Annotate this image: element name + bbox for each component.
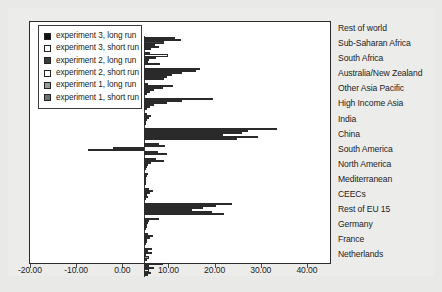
category-label: Netherlands: [338, 250, 383, 259]
bar: [144, 168, 146, 170]
bar: [144, 198, 146, 200]
legend-item: experiment 2, short run: [44, 67, 135, 79]
category-labels: Rest of worldSub-Saharan AfricaSouth Afr…: [338, 21, 442, 264]
legend-swatch-icon: [44, 57, 51, 64]
bar: [144, 93, 147, 95]
x-axis-tick-label: 10.00: [158, 266, 179, 275]
legend-item: experiment 1, short run: [44, 91, 135, 103]
legend-item: experiment 1, long run: [44, 79, 135, 91]
category-label: China: [338, 130, 360, 139]
figure-panel: experiment 3, long runexperiment 3, shor…: [8, 8, 434, 276]
category-label: France: [338, 235, 364, 244]
legend-item: experiment 3, long run: [44, 30, 135, 42]
legend-item-label: experiment 1, short run: [56, 94, 139, 102]
bar-group: [52, 232, 352, 247]
category-label: Australia/New Zealand: [338, 69, 422, 78]
x-axis-tick-label: 0.00: [114, 266, 130, 275]
x-axis-tick-label: -20.00: [18, 266, 42, 275]
bar-group: [52, 187, 352, 202]
chart-figure: experiment 3, long runexperiment 3, shor…: [0, 0, 442, 292]
bar: [144, 108, 147, 110]
bar-group: [52, 202, 352, 217]
category-label: Mediterranean: [338, 175, 392, 184]
bar-group: [52, 217, 352, 232]
category-label: South America: [338, 145, 393, 154]
legend-item-label: experiment 2, long run: [56, 57, 136, 65]
legend-swatch-icon: [44, 70, 51, 77]
category-label: Germany: [338, 220, 373, 229]
category-label: High Income Asia: [338, 99, 403, 108]
legend-item-label: experiment 3, short run: [56, 44, 139, 52]
category-label: Sub-Saharan Africa: [338, 39, 411, 48]
bar-group: [52, 157, 352, 172]
legend-item-label: experiment 1, long run: [56, 81, 136, 89]
x-axis-tick-label: 40.00: [296, 266, 317, 275]
legend-swatch-icon: [44, 33, 51, 40]
bar: [88, 149, 144, 151]
bar: [144, 123, 146, 125]
x-axis-labels: -20.00-10.000.0010.0020.0030.0040.00: [8, 266, 442, 282]
bar: [144, 78, 163, 80]
bar: [144, 243, 146, 245]
bar: [144, 228, 146, 230]
bar: [144, 153, 167, 155]
x-axis-tick-label: 30.00: [250, 266, 271, 275]
legend-swatch-icon: [44, 94, 51, 101]
bar-group: [52, 126, 352, 141]
legend-item: experiment 2, long run: [44, 55, 135, 67]
legend-item: experiment 3, short run: [44, 42, 135, 54]
category-label: CEECs: [338, 190, 366, 199]
bar: [144, 138, 237, 140]
x-axis-tick-label: 20.00: [204, 266, 225, 275]
category-label: South Africa: [338, 54, 383, 63]
bar: [144, 145, 164, 147]
bar: [144, 213, 224, 215]
bar-group: [52, 141, 352, 156]
bar: [144, 259, 146, 261]
bar: [144, 183, 146, 185]
category-label: North America: [338, 160, 391, 169]
bar-group: [52, 172, 352, 187]
category-label: Other Asia Pacific: [338, 84, 404, 93]
bar-group: [52, 247, 352, 262]
bar: [144, 48, 151, 50]
category-label: India: [338, 115, 356, 124]
legend-item-label: experiment 3, long run: [56, 32, 136, 40]
chart-legend: experiment 3, long runexperiment 3, shor…: [38, 25, 142, 109]
legend-swatch-icon: [44, 45, 51, 52]
bar: [144, 63, 159, 65]
category-label: Rest of world: [338, 24, 387, 33]
x-axis-tick-label: -10.00: [64, 266, 88, 275]
bar-group: [52, 111, 352, 126]
legend-swatch-icon: [44, 82, 51, 89]
category-label: Rest of EU 15: [338, 205, 390, 214]
legend-item-label: experiment 2, short run: [56, 69, 139, 77]
